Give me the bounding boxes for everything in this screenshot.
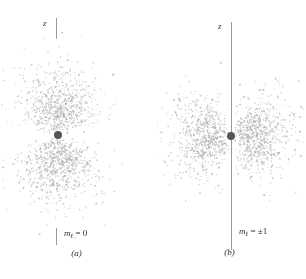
- panel-caption-b: (b): [153, 247, 306, 257]
- z-axis-label-a: z: [43, 18, 47, 28]
- m-subscript-a: ℓ: [71, 232, 74, 239]
- nucleus-dot-a: [54, 131, 62, 139]
- z-axis-label-b: z: [218, 21, 222, 31]
- panel-a: z mℓ = 0 (a): [0, 0, 153, 279]
- m-value-b: = ±1: [250, 226, 267, 236]
- magnetic-quantum-number-label-a: mℓ = 0: [64, 228, 87, 239]
- z-axis-stub-bottom-a: [56, 228, 57, 245]
- m-value-a: = 0: [75, 228, 87, 238]
- m-subscript-b: ℓ: [246, 230, 249, 237]
- panel-b: z mℓ = ±1 (b): [153, 0, 306, 279]
- panel-caption-a: (a): [0, 248, 153, 258]
- nucleus-dot-b: [227, 132, 235, 140]
- z-axis-stub-top-a: [56, 18, 57, 39]
- orbital-figure: z mℓ = 0 (a) z mℓ = ±1 (b): [0, 0, 306, 279]
- magnetic-quantum-number-label-b: mℓ = ±1: [239, 226, 267, 237]
